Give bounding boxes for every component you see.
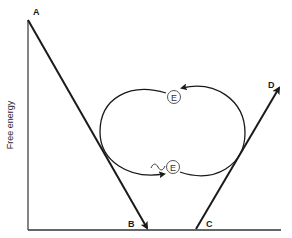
y-axis-label: Free energy (5, 100, 15, 149)
diagram-canvas: Free energy E E A B C D (0, 0, 292, 238)
enzyme-top-label: E (171, 93, 177, 103)
point-label-b: B (128, 219, 135, 229)
point-label-c: C (206, 219, 213, 229)
enzyme-bottom: E (151, 161, 180, 174)
point-label-a: A (33, 7, 40, 17)
enzyme-bottom-label: E (170, 163, 176, 173)
point-label-d: D (268, 80, 275, 90)
exergonic-arrow-a-to-b (28, 20, 147, 228)
high-energy-tilde-icon (151, 164, 165, 170)
free-energy-diagram: Free energy E E A B C D (0, 0, 292, 238)
enzyme-top: E (168, 91, 181, 104)
